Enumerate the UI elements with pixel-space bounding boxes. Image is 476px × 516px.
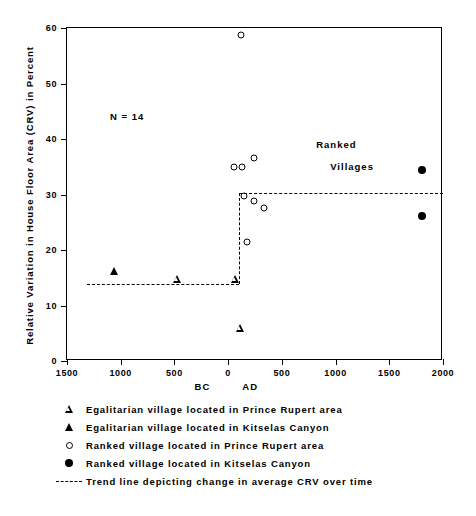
y-tick-label: 60 (46, 23, 57, 33)
y-tick-mark (61, 306, 67, 307)
legend-symbol-dashed-line (52, 481, 86, 482)
y-axis-title: Relative Variation in House Floor Area (… (24, 31, 35, 361)
plot-annotation: Villages (330, 161, 374, 172)
x-tick-mark (389, 359, 390, 365)
plot-annotation: Ranked (316, 139, 356, 150)
legend-label: Egalitarian village located in Prince Ru… (86, 404, 343, 415)
x-tick-mark (336, 359, 337, 365)
x-tick-label: 1500 (56, 368, 78, 378)
chart-figure: Relative Variation in House Floor Area (… (0, 0, 476, 516)
marker-filled-circle (418, 212, 426, 220)
y-tick-mark (61, 139, 67, 140)
legend-label: Ranked village located in Kitselas Canyo… (86, 458, 311, 469)
legend-symbol-filled-circle (52, 459, 86, 467)
legend-item: Egalitarian village located in Prince Ru… (52, 400, 472, 418)
y-tick-label: 40 (46, 134, 57, 144)
x-tick-label: 500 (166, 368, 183, 378)
marker-open-circle (238, 31, 245, 38)
y-tick-mark (61, 28, 67, 29)
y-tick-label: 10 (46, 301, 57, 311)
open-triangle-icon (65, 405, 73, 413)
trend-segment (239, 193, 443, 194)
x-tick-mark (282, 359, 283, 365)
legend-label: Ranked village located in Prince Rupert … (86, 440, 324, 451)
filled-triangle-icon (65, 423, 73, 431)
marker-filled-triangle (110, 267, 118, 275)
data-markers (67, 28, 441, 52)
marker-open-triangle (173, 275, 181, 283)
marker-open-circle (239, 163, 246, 170)
x-tick-mark (121, 359, 122, 365)
legend-label: Egalitarian village located in Kitselas … (86, 422, 329, 433)
era-label: BC (194, 381, 210, 392)
legend-label: Trend line depicting change in average C… (86, 476, 373, 487)
y-tick-mark (61, 250, 67, 251)
x-tick-label: 500 (273, 368, 290, 378)
x-tick-label: 1000 (324, 368, 346, 378)
plot-area: 0102030405060 15001000500050010001500200… (66, 27, 442, 360)
x-tick-label: 1500 (378, 368, 400, 378)
y-tick-mark (61, 195, 67, 196)
trend-segment (239, 193, 240, 284)
era-label: AD (242, 381, 258, 392)
plot-annotation: N = 14 (110, 111, 144, 122)
open-circle-icon (66, 442, 73, 449)
marker-open-circle (251, 197, 258, 204)
marker-open-circle (251, 155, 258, 162)
marker-open-triangle (231, 275, 239, 283)
x-tick-label: 1000 (109, 368, 131, 378)
legend-item: Trend line depicting change in average C… (52, 472, 472, 490)
x-tick-mark (174, 359, 175, 365)
dashed-line-icon (56, 481, 82, 482)
y-tick-label: 0 (51, 356, 57, 366)
legend-item: Ranked village located in Kitselas Canyo… (52, 454, 472, 472)
x-tick-mark (443, 359, 444, 365)
legend-item: Egalitarian village located in Kitselas … (52, 418, 472, 436)
marker-open-circle (243, 239, 250, 246)
y-tick-label: 30 (46, 190, 57, 200)
legend-symbol-open-triangle (52, 405, 86, 413)
x-tick-mark (228, 359, 229, 365)
filled-circle-icon (65, 459, 73, 467)
x-tick-label: 2000 (432, 368, 454, 378)
legend-symbol-filled-triangle (52, 423, 86, 431)
marker-open-circle (231, 163, 238, 170)
trend-segment (87, 284, 239, 285)
marker-open-circle (260, 205, 267, 212)
chart-legend: Egalitarian village located in Prince Ru… (52, 400, 472, 490)
x-tick-label: 0 (225, 368, 231, 378)
y-tick-label: 50 (46, 79, 57, 89)
y-tick-label: 20 (46, 245, 57, 255)
marker-open-triangle (236, 324, 244, 332)
legend-item: Ranked village located in Prince Rupert … (52, 436, 472, 454)
x-tick-mark (67, 359, 68, 365)
marker-filled-circle (418, 166, 426, 174)
legend-symbol-open-circle (52, 442, 86, 449)
y-tick-mark (61, 84, 67, 85)
